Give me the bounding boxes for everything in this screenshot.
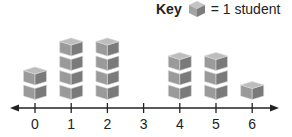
- dot-plot: 0123456: [0, 0, 292, 137]
- right-arrow-icon: [270, 105, 279, 112]
- tick-label: 1: [67, 116, 75, 132]
- cube: [168, 85, 180, 100]
- cube: [205, 85, 217, 100]
- cube: [96, 85, 108, 100]
- tick-label: 0: [31, 116, 39, 132]
- cube: [96, 71, 108, 86]
- cube: [24, 85, 36, 100]
- cube: [96, 56, 108, 71]
- tick-label: 5: [212, 116, 220, 132]
- cube: [168, 71, 180, 86]
- cube: [205, 71, 217, 86]
- tick-label: 3: [140, 116, 148, 132]
- cube: [60, 85, 71, 100]
- tick-label: 2: [104, 116, 112, 132]
- left-arrow-icon: [10, 105, 19, 112]
- cube: [60, 71, 71, 86]
- tick-label: 6: [248, 116, 256, 132]
- cube: [60, 56, 71, 71]
- tick-label: 4: [176, 116, 184, 132]
